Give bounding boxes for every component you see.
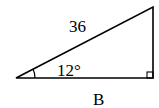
angle-label: 12° [57, 61, 81, 80]
angle-arc [33, 69, 35, 78]
triangle-diagram: 36 12° B [0, 0, 159, 108]
right-angle-marker [147, 72, 153, 78]
hypotenuse-label: 36 [69, 17, 86, 36]
base-label: B [93, 90, 104, 108]
